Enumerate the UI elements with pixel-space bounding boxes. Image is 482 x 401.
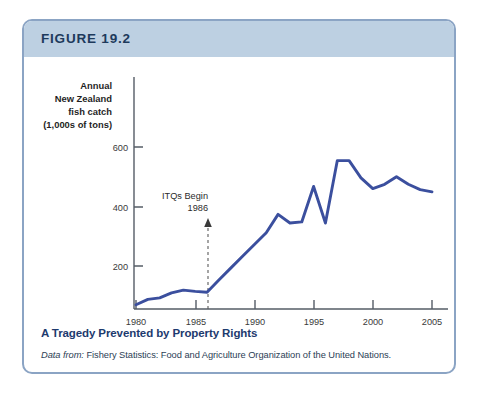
y-tick-label-600: 600 <box>113 143 128 153</box>
x-tick-label-2000: 2000 <box>363 317 383 325</box>
line-chart-svg: Annual New Zealand fish catch (1,000s of… <box>24 57 456 325</box>
y-tick-label-400: 400 <box>113 203 128 213</box>
chart-plot-area: Annual New Zealand fish catch (1,000s of… <box>24 57 454 325</box>
source-rest: Fishery Statistics: Food and Agriculture… <box>84 350 391 360</box>
annotation-line-1: ITQs Begin <box>162 191 208 201</box>
x-tick-label-1990: 1990 <box>245 317 265 325</box>
y-axis-title-line-1: Annual <box>80 80 112 91</box>
source-lead: Data from: <box>41 350 84 360</box>
figure-caption-block: A Tragedy Prevented by Property Rights D… <box>41 327 441 360</box>
x-tick-label-1995: 1995 <box>304 317 324 325</box>
annotation-line-2: 1986 <box>188 203 208 213</box>
x-tick-label-1980: 1980 <box>126 317 146 325</box>
y-axis-title-line-4: (1,000s of tons) <box>43 119 112 130</box>
x-axis-ticks: 1980 1985 1990 1995 2000 2005 <box>126 300 442 325</box>
x-tick-label-2005: 2005 <box>422 317 442 325</box>
annotation-arrow-icon <box>204 218 212 227</box>
figure-number-label: FIGURE 19.2 <box>41 31 131 46</box>
catch-data-line <box>136 161 432 305</box>
y-tick-label-200: 200 <box>113 262 128 272</box>
y-axis-title-line-2: New Zealand <box>55 93 113 104</box>
caption-title: A Tragedy Prevented by Property Rights <box>41 327 441 339</box>
y-axis-ticks: 600 400 200 <box>113 143 143 272</box>
x-tick-label-1985: 1985 <box>186 317 206 325</box>
y-axis-title: Annual New Zealand fish catch (1,000s of… <box>43 80 112 130</box>
figure-header-band: FIGURE 19.2 <box>24 21 454 57</box>
y-axis-title-line-3: fish catch <box>68 106 112 117</box>
figure-card: FIGURE 19.2 Annual New Zealand fish catc… <box>22 19 456 374</box>
caption-source: Data from: Fishery Statistics: Food and … <box>41 350 441 360</box>
